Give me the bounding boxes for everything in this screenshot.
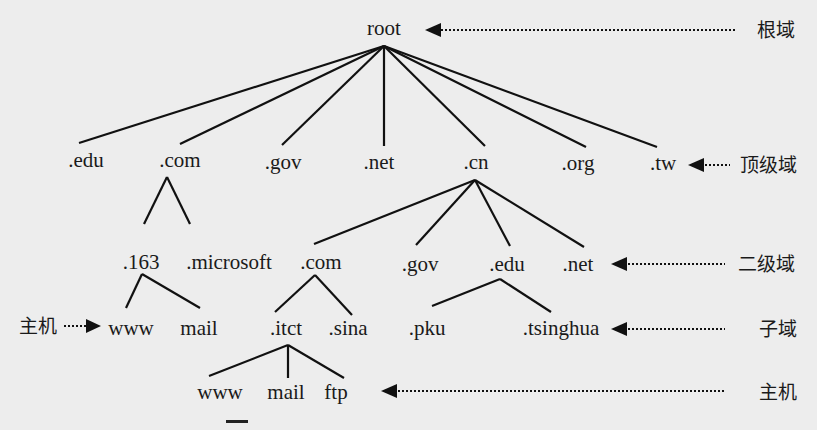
label-subdomain: 子域 [759, 317, 797, 341]
arrow-left-icon [611, 257, 627, 271]
node-root: root [367, 16, 401, 40]
node-cn-net: .net [563, 252, 594, 276]
dns-tree-diagram: root .edu .com .gov .net .cn .org .tw .1… [0, 0, 817, 430]
node-tld-org: .org [562, 151, 595, 175]
node-itct-mail: mail [267, 380, 304, 404]
node-163-mail: mail [180, 316, 217, 340]
arrow-left-icon [381, 384, 397, 398]
node-163-www: www [108, 316, 154, 340]
node-tld-cn: .cn [463, 150, 488, 174]
node-pku: .pku [409, 316, 446, 340]
node-cn-gov: .gov [402, 252, 439, 276]
node-sina: .sina [328, 316, 367, 340]
node-tld-gov: .gov [265, 150, 302, 174]
arrow-left-icon [425, 23, 441, 37]
node-cn-com: .com [300, 250, 341, 274]
node-itct-www: www [197, 380, 243, 404]
node-tld-net: .net [364, 150, 395, 174]
node-itct: .itct [270, 316, 302, 340]
node-tsinghua: .tsinghua [523, 316, 599, 340]
arrow-left-icon [611, 322, 627, 336]
label-host-left: 主机 [19, 314, 57, 338]
caption-fragment [226, 420, 248, 423]
node-cn-edu: .edu [489, 252, 525, 276]
node-itct-ftp: ftp [324, 380, 347, 404]
node-tld-com: .com [159, 148, 200, 172]
label-second-level-domain: 二级域 [738, 252, 795, 276]
node-163: .163 [123, 250, 160, 274]
arrow-left-icon [688, 158, 704, 172]
label-top-level-domain: 顶级域 [740, 153, 797, 177]
node-tld-tw: .tw [650, 151, 676, 175]
node-microsoft: .microsoft [186, 250, 272, 274]
node-tld-edu: .edu [68, 148, 104, 172]
label-host: 主机 [759, 380, 797, 404]
arrow-right-icon [86, 319, 101, 333]
tree-edges [0, 0, 817, 430]
label-root-domain: 根域 [757, 18, 795, 42]
